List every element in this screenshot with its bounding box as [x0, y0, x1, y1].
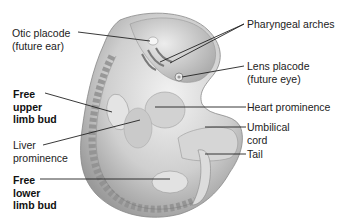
label-line: limb bud	[13, 199, 57, 212]
label-lens-placode: Lens placode (future eye)	[247, 60, 309, 85]
label-line: prominence	[13, 152, 68, 165]
label-otic-placode: Otic placode (future ear)	[12, 27, 70, 52]
label-line: Otic placode	[12, 27, 70, 40]
label-tail: Tail	[247, 148, 263, 161]
label-free-upper-limb-bud: Free upper limb bud	[13, 88, 57, 126]
label-line: Pharyngeal arches	[247, 18, 335, 31]
label-line: Liver	[13, 139, 68, 152]
label-line: (future ear)	[12, 40, 70, 53]
label-line: Lens placode	[247, 60, 309, 73]
liver-prominence	[124, 108, 152, 148]
label-line: Heart prominence	[247, 101, 330, 114]
label-line: Free	[13, 174, 57, 187]
label-free-lower-limb-bud: Free lower limb bud	[13, 174, 57, 212]
label-pharyngeal-arches: Pharyngeal arches	[247, 18, 335, 31]
label-heart-prominence: Heart prominence	[247, 101, 330, 114]
label-line: Umbilical	[247, 121, 290, 134]
label-line: Free	[13, 88, 57, 101]
label-umbilical-cord: Umbilical cord	[247, 121, 290, 146]
label-line: (future eye)	[247, 73, 309, 86]
label-line: Tail	[247, 148, 263, 161]
label-liver-prominence: Liver prominence	[13, 139, 68, 164]
embryo-diagram: Otic placode (future ear) Free upper lim…	[0, 0, 343, 223]
label-line: cord	[247, 134, 290, 147]
lower-limb-bud	[152, 171, 188, 193]
label-line: upper	[13, 101, 57, 114]
label-line: limb bud	[13, 113, 57, 126]
label-line: lower	[13, 187, 57, 200]
